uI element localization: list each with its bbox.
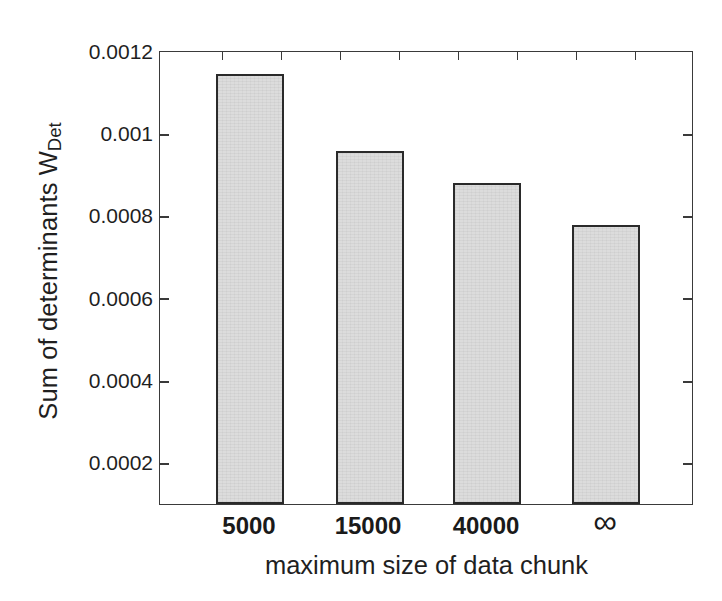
y-tick-label-0.0002: 0.0002: [57, 451, 153, 475]
x-tick-label-infinity: ∞: [539, 503, 669, 541]
y-tick-mark-right-0.0004: [683, 381, 692, 383]
plot-area: [159, 51, 693, 505]
y-tick-mark-right-0.0008: [683, 216, 692, 218]
y-tick-mark-right-0.0002: [683, 463, 692, 465]
y-tick-mark-0.0004: [160, 381, 169, 383]
y-tick-label-0.0012: 0.0012: [57, 40, 153, 64]
bar-15000[interactable]: [336, 151, 404, 504]
x-tick-mark-top-8: [635, 52, 636, 60]
x-tick-mark-top-5: [458, 52, 459, 60]
y-tick-mark-right-0.0006: [683, 298, 692, 300]
bar-chart-figure: Sum of determinants WDet 0.0012 0.001 0.…: [0, 0, 722, 601]
y-tick-label-0.001: 0.001: [57, 122, 153, 146]
x-tick-mark-top-6: [517, 52, 518, 60]
x-axis-title: maximum size of data chunk: [159, 551, 694, 580]
y-tick-mark-0.0008: [160, 216, 169, 218]
x-tick-mark-top-7: [576, 52, 577, 60]
x-tick-label-40000: 40000: [421, 512, 551, 540]
y-tick-mark-0.0002: [160, 463, 169, 465]
x-tick-mark-top-1: [222, 52, 223, 60]
y-tick-label-0.0008: 0.0008: [57, 204, 153, 228]
y-tick-mark-0.0006: [160, 298, 169, 300]
x-tick-label-5000: 5000: [184, 512, 314, 540]
x-tick-mark-top-4: [399, 52, 400, 60]
clipped-caption-fragment: [230, 0, 530, 6]
y-tick-mark-0.001: [160, 134, 169, 136]
x-tick-mark-top-2: [281, 52, 282, 60]
x-tick-label-15000: 15000: [303, 512, 433, 540]
bar-40000[interactable]: [453, 183, 521, 504]
bar-5000[interactable]: [216, 74, 284, 504]
x-tick-mark-top-3: [340, 52, 341, 60]
y-tick-label-0.0004: 0.0004: [57, 369, 153, 393]
y-tick-mark-right-0.001: [683, 134, 692, 136]
y-tick-label-0.0006: 0.0006: [57, 287, 153, 311]
bar-infinity[interactable]: [572, 225, 640, 504]
